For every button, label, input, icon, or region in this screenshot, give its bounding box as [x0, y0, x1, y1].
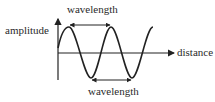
wave-diagram: wavelength amplitude distance wavelength	[0, 0, 215, 102]
distance-label: distance	[177, 47, 213, 58]
wavelength-top-label: wavelength	[67, 4, 118, 15]
amplitude-label: amplitude	[5, 25, 49, 36]
wavelength-bottom-label: wavelength	[88, 86, 139, 97]
